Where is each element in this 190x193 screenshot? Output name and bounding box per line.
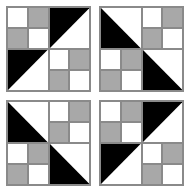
patch-bottom-left-gray (100, 122, 121, 143)
patch-bottom-right-white (162, 28, 183, 49)
patch-top-right-gray (28, 143, 49, 164)
patch-bottom-right-white (121, 70, 142, 91)
patch-top-left-white (100, 49, 121, 70)
patch-top-right-gray (28, 7, 49, 28)
patch-top-left-white (142, 143, 163, 164)
patch-top-right-gray (121, 101, 142, 122)
patch-bottom-left-gray (142, 164, 163, 185)
four-patch-quadrant (100, 49, 142, 91)
patch-top-right-gray (121, 49, 142, 70)
block-bottom-right (99, 100, 184, 186)
triangle-shape-icon (50, 144, 90, 184)
patch-top-left-white (142, 7, 163, 28)
patch-bottom-right-white (121, 122, 142, 143)
four-patch-quadrant (7, 7, 49, 49)
half-square-triangle-quadrant (49, 7, 91, 49)
block-top-left (6, 6, 91, 92)
patch-top-right-gray (69, 49, 90, 70)
triangle-shape-icon (8, 50, 48, 90)
patch-bottom-right-white (162, 164, 183, 185)
half-square-triangle-quadrant (100, 7, 142, 49)
patch-bottom-left-gray (7, 28, 28, 49)
half-square-triangle-quadrant (49, 143, 91, 185)
patch-bottom-left-gray (100, 70, 121, 91)
triangle-shape-icon (101, 8, 141, 48)
half-square-triangle-quadrant (7, 101, 49, 143)
block-top-right (99, 6, 184, 92)
patch-bottom-right-white (28, 28, 49, 49)
patch-top-left-white (7, 143, 28, 164)
patch-top-right-gray (162, 7, 183, 28)
four-patch-quadrant (142, 7, 184, 49)
patch-top-left-white (49, 101, 70, 122)
half-square-triangle-quadrant (7, 49, 49, 91)
half-square-triangle-quadrant (142, 49, 184, 91)
four-patch-quadrant (49, 49, 91, 91)
patch-top-right-gray (69, 101, 90, 122)
four-patch-quadrant (142, 143, 184, 185)
patch-bottom-left-gray (49, 122, 70, 143)
triangle-shape-icon (50, 8, 90, 48)
half-square-triangle-quadrant (100, 143, 142, 185)
triangle-shape-icon (101, 144, 141, 184)
patch-bottom-right-white (28, 164, 49, 185)
four-patch-quadrant (7, 143, 49, 185)
block-bottom-left (6, 100, 91, 186)
triangle-shape-icon (143, 50, 183, 90)
patch-bottom-left-gray (49, 70, 70, 91)
quilt-pattern-canvas (0, 0, 190, 193)
patch-top-left-white (100, 101, 121, 122)
patch-bottom-left-gray (142, 28, 163, 49)
patch-top-right-gray (162, 143, 183, 164)
triangle-shape-icon (143, 102, 183, 142)
patch-bottom-left-gray (7, 164, 28, 185)
four-patch-quadrant (49, 101, 91, 143)
patch-top-left-white (49, 49, 70, 70)
patch-bottom-right-white (69, 70, 90, 91)
half-square-triangle-quadrant (142, 101, 184, 143)
four-patch-quadrant (100, 101, 142, 143)
patch-bottom-right-white (69, 122, 90, 143)
patch-top-left-white (7, 7, 28, 28)
triangle-shape-icon (8, 102, 48, 142)
